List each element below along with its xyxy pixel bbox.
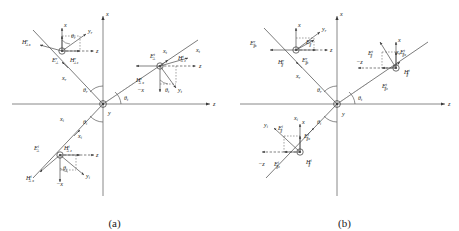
E-par-rz-label-b: Er∥z (301, 56, 309, 66)
svg-text:x: x (397, 36, 401, 43)
transmitted-wave-cluster-b: x −z Et∥ Et∥x Et∥z Ht∥ (356, 36, 410, 91)
z-axis-label-a: z (212, 100, 216, 107)
theta-r-label-a: θr (83, 87, 88, 94)
reflected-ray-label-b: xr (295, 72, 301, 80)
H-par-i-label-b: Hi∥ (305, 158, 312, 168)
panel-a-caption: (a) (0, 217, 229, 229)
svg-text:−x: −x (137, 86, 144, 93)
theta-r-arc-a (90, 86, 103, 92)
svg-text:z: z (198, 62, 202, 69)
transmitted-wave-cluster-a: θt xt yt z −x Et⊥ Ht⊥z Ht⊥x (135, 46, 202, 94)
svg-text:yi: yi (263, 121, 269, 129)
E-par-rx-label-b: Er∥x (249, 39, 257, 49)
H-perp-ix-vector-a (40, 155, 60, 172)
E-par-t-vector-b (380, 42, 396, 68)
panel-b-caption: (b) (230, 217, 459, 229)
H-perp-tz-label-a: Ht⊥z (177, 54, 186, 64)
panel-a-perpendicular-polarization: θr θi θt y x z xi xr xt (0, 0, 229, 231)
local-y-b-i (274, 128, 300, 152)
y-axis-label-a: y (107, 109, 111, 116)
svg-text:yr: yr (87, 27, 93, 35)
theta-i-arc-b (324, 116, 337, 122)
theta-i-label-a: θi (83, 119, 88, 126)
E-perp-r-label-a: Hr⊥x (21, 38, 31, 48)
reflected-wave-cluster-b: x yr z Er∥x Er∥ Er∥z Hr∥ (249, 21, 333, 67)
reflected-ray-label-a: xr (61, 74, 67, 82)
E-perp-r-vector-a (40, 45, 62, 51)
theta-r-arc-b (324, 86, 337, 92)
incident-ray-label-b: xi (293, 114, 299, 122)
x-axis-label-a: x (105, 10, 109, 17)
E-par-r-label-b: Er∥ (305, 38, 312, 48)
incident-wave-cluster-a: θi xi yi z −x Ei⊥ Hi⊥z Hi⊥x (25, 132, 99, 187)
theta-i-arc-a (90, 116, 103, 122)
H-perp-iz-label-a: Hi⊥z (63, 144, 72, 154)
svg-text:z: z (329, 46, 333, 53)
reflected-ray-arrow-a (62, 62, 68, 68)
y-axis-label-b: y (341, 110, 345, 117)
local-y-a-t (160, 66, 176, 88)
svg-text:θi: θi (63, 165, 68, 172)
incident-ray-label-a: xi (59, 115, 65, 123)
E-par-t-label-b: Et∥ (367, 49, 374, 59)
z-axis-label-b: z (447, 100, 451, 107)
incident-ray-a (33, 104, 103, 178)
svg-text:yt: yt (177, 86, 183, 94)
normal-dashed-a (103, 83, 134, 104)
theta-t-label-a: θt (124, 95, 129, 102)
svg-text:−z: −z (258, 160, 265, 167)
svg-text:z: z (95, 47, 99, 54)
reflected-ray-b (264, 28, 337, 104)
E-par-iz-label-b: Ei∥z (273, 160, 280, 170)
H-par-t-label-b: Ht∥ (403, 68, 410, 78)
E-perp-r-origin-label-a: Er⊥ (51, 56, 59, 66)
x-axis-label-b: x (339, 10, 343, 17)
E-perp-t-label-a: Et⊥ (149, 52, 156, 62)
panel-b-diagram: θr θi θt y x z xi xr xt (230, 0, 459, 231)
E-par-tz-label-b: Et∥z (381, 82, 388, 92)
svg-text:θt: θt (165, 87, 170, 94)
transmitted-ray-label-a: xt (162, 47, 168, 55)
E-perp-i-label-a: Ei⊥ (33, 144, 40, 154)
svg-text:z: z (95, 151, 99, 158)
svg-text:−z: −z (356, 58, 363, 65)
svg-text:yi: yi (85, 172, 91, 180)
H-par-r-label-b: Hr∥ (277, 58, 284, 68)
H-perp-rz-label-a: Hr⊥z (69, 56, 79, 66)
svg-text:xt: xt (195, 46, 201, 54)
panel-a-diagram: θr θi θt y x z xi xr xt (0, 0, 229, 231)
svg-text:x: x (297, 21, 301, 28)
svg-text:yr: yr (321, 25, 327, 33)
svg-text:−x: −x (56, 180, 63, 187)
svg-text:x: x (63, 21, 67, 28)
H-perp-ix-label-a: Hi⊥x (25, 174, 34, 184)
svg-text:θr: θr (71, 33, 76, 40)
svg-text:xi: xi (77, 132, 83, 140)
incident-wave-cluster-b: x yi −z Ei∥ Ei∥x Ei∥z Hi∥ (258, 118, 312, 169)
transmitted-ray-b (337, 42, 428, 104)
E-par-tx-label-b: Et∥x (399, 48, 406, 58)
theta-t-label-b: θt (358, 95, 363, 102)
svg-text:x: x (301, 118, 305, 125)
panel-b-parallel-polarization: θr θi θt y x z xi xr xt (230, 0, 459, 231)
reflected-ray-a (33, 30, 103, 104)
figure-container: θr θi θt y x z xi xr xt (0, 0, 459, 231)
